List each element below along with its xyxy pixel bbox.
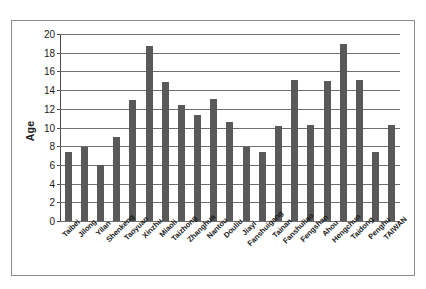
x-label-slot: Shenkeng	[109, 223, 125, 277]
bar[interactable]	[113, 137, 120, 221]
bar-slot	[303, 34, 319, 221]
bar[interactable]	[65, 152, 72, 221]
bar-slot	[141, 34, 157, 221]
y-tick-label: 4	[49, 178, 55, 189]
x-axis-labels: TaibeiJilongYilanShenkengTaoyuanXinzhuMi…	[60, 223, 400, 277]
y-axis-title: Age	[24, 101, 36, 161]
x-label-slot: Jilong	[76, 223, 92, 277]
bar[interactable]	[340, 44, 347, 221]
bar-series	[60, 34, 400, 221]
y-tick-label: 10	[44, 122, 55, 133]
bar[interactable]	[388, 125, 395, 221]
bar[interactable]	[178, 105, 185, 221]
y-tick-label: 2	[49, 197, 55, 208]
bar-slot	[368, 34, 384, 221]
bar[interactable]	[226, 122, 233, 221]
bar-slot	[190, 34, 206, 221]
y-tick-label: 6	[49, 159, 55, 170]
bar-slot	[206, 34, 222, 221]
bar[interactable]	[259, 152, 266, 221]
x-label-slot: Yilan	[92, 223, 108, 277]
bar-slot	[238, 34, 254, 221]
x-label-slot: Zhanghua	[190, 223, 206, 277]
x-label-slot: Ahou	[319, 223, 335, 277]
bar-slot	[60, 34, 76, 221]
y-tick-label: 12	[44, 103, 55, 114]
bar-slot	[76, 34, 92, 221]
bar-slot	[319, 34, 335, 221]
bar-slot	[92, 34, 108, 221]
x-label-slot: Nantou	[206, 223, 222, 277]
bar[interactable]	[81, 147, 88, 221]
x-label-slot: Taibei	[60, 223, 76, 277]
bar[interactable]	[291, 80, 298, 221]
chart-plot-region: Age 02468101214161820 TaibeiJilongYilanS…	[12, 21, 416, 277]
x-label-slot: Douliu	[222, 223, 238, 277]
bar-slot	[109, 34, 125, 221]
bar-slot	[287, 34, 303, 221]
x-label-slot: Jiayi	[238, 223, 254, 277]
y-tick-mark	[57, 221, 60, 222]
plot-area: 02468101214161820	[60, 34, 400, 221]
bar-slot	[222, 34, 238, 221]
bar-slot	[173, 34, 189, 221]
bar-slot	[335, 34, 351, 221]
y-tick-label: 0	[49, 216, 55, 227]
x-label-slot: TAIWAN	[384, 223, 400, 277]
x-label-slot: Fengshan	[303, 223, 319, 277]
bar-slot	[270, 34, 286, 221]
bar[interactable]	[129, 100, 136, 221]
bar-slot	[125, 34, 141, 221]
bar-slot	[384, 34, 400, 221]
y-tick-label: 20	[44, 29, 55, 40]
bar[interactable]	[210, 99, 217, 221]
bar[interactable]	[146, 46, 153, 221]
bar[interactable]	[372, 152, 379, 221]
x-label-slot: Hengchun	[335, 223, 351, 277]
bar[interactable]	[324, 81, 331, 221]
bar[interactable]	[275, 126, 282, 221]
x-label-slot: Taizhong	[173, 223, 189, 277]
x-label-slot: Taoyuan	[125, 223, 141, 277]
bar[interactable]	[97, 165, 104, 221]
x-label-slot: Fanshuliao	[287, 223, 303, 277]
bar[interactable]	[356, 80, 363, 221]
x-label-slot: Fanshuigang	[254, 223, 270, 277]
x-label-slot: Penghu	[368, 223, 384, 277]
x-label-slot: Taidong	[351, 223, 367, 277]
bar[interactable]	[194, 115, 201, 221]
y-tick-label: 16	[44, 66, 55, 77]
y-tick-label: 14	[44, 85, 55, 96]
bar[interactable]	[162, 82, 169, 221]
chart-figure: Age 02468101214161820 TaibeiJilongYilanS…	[11, 20, 415, 276]
bar[interactable]	[243, 147, 250, 221]
x-label-slot: Tainan	[270, 223, 286, 277]
y-tick-label: 18	[44, 47, 55, 58]
bar-slot	[351, 34, 367, 221]
bar[interactable]	[307, 125, 314, 221]
bar-slot	[254, 34, 270, 221]
bar-slot	[157, 34, 173, 221]
x-label-slot: Miaoli	[157, 223, 173, 277]
x-label-slot: Xinzhu	[141, 223, 157, 277]
y-tick-label: 8	[49, 141, 55, 152]
